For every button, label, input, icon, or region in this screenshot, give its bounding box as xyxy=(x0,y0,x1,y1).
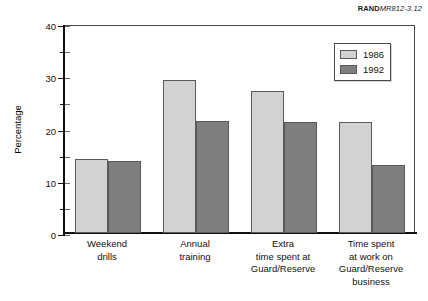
y-tick-inner xyxy=(65,183,70,184)
bar-1992-1 xyxy=(196,121,229,233)
y-tick-inner xyxy=(65,78,70,79)
legend-item-1986[interactable]: 1986 xyxy=(340,48,384,61)
y-tick-inner-minor xyxy=(65,104,70,105)
y-tick-inner-minor xyxy=(65,209,70,210)
source-credit-code: MR812-3.12 xyxy=(380,4,422,13)
y-tick-major xyxy=(58,235,64,236)
bar-1992-0 xyxy=(108,161,141,233)
legend-label-1992: 1992 xyxy=(363,65,384,75)
y-tick-inner xyxy=(65,26,70,27)
source-credit: RANDMR812-3.12 xyxy=(358,4,422,13)
y-tick-major xyxy=(58,131,64,132)
y-tick-major xyxy=(58,183,64,184)
source-credit-prefix: RAND xyxy=(358,4,380,13)
y-tick-inner-minor xyxy=(65,52,70,53)
y-tick-label: 30 xyxy=(45,73,56,84)
y-tick-inner xyxy=(65,235,70,236)
y-tick-minor xyxy=(60,52,64,53)
bar-1986-1 xyxy=(163,80,196,233)
legend-swatch-1992 xyxy=(340,65,357,74)
y-tick-inner-minor xyxy=(65,157,70,158)
y-tick-minor xyxy=(60,209,64,210)
y-tick-label: 40 xyxy=(45,21,56,32)
bar-1986-0 xyxy=(75,159,108,233)
bar-1986-3 xyxy=(339,122,372,233)
y-tick-label: 20 xyxy=(45,125,56,136)
x-category-label-3: Time spent at work on Guard/Reserve busi… xyxy=(317,238,425,288)
y-tick-major xyxy=(58,26,64,27)
chart-legend: 1986 1992 xyxy=(334,43,391,81)
bar-1992-3 xyxy=(372,165,405,233)
bar-1992-2 xyxy=(284,122,317,233)
y-tick-minor xyxy=(60,157,64,158)
y-tick-minor xyxy=(60,104,64,105)
y-axis-title: Percentage xyxy=(11,25,25,234)
legend-item-1992[interactable]: 1992 xyxy=(340,63,384,76)
legend-label-1986: 1986 xyxy=(363,50,384,60)
y-tick-label: 10 xyxy=(45,177,56,188)
legend-swatch-1986 xyxy=(340,50,357,59)
y-tick-major xyxy=(58,78,64,79)
y-tick-inner xyxy=(65,131,70,132)
bar-1986-2 xyxy=(251,91,284,233)
